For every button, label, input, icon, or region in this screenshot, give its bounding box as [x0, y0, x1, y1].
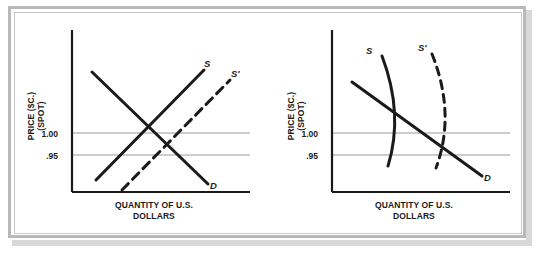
chart-panel-elastic-supply: PRICE ($C.) (SPOT) 1.00 .95 S S' D QUANT… — [18, 14, 268, 230]
x-axis-title-line2: DOLLARS — [314, 211, 514, 222]
x-axis-title-line1: QUANTITY OF U.S. — [54, 200, 254, 211]
curve-demand — [352, 82, 482, 176]
x-axis-title-line2: DOLLARS — [54, 211, 254, 222]
x-axis-title-line1: QUANTITY OF U.S. — [314, 200, 514, 211]
figure-root: PRICE ($C.) (SPOT) 1.00 .95 S S' D QUANT… — [0, 0, 538, 260]
chart-panel-inelastic-supply: PRICE ($C.) (SPOT) 1.00 .95 S S' D QUANT… — [278, 14, 528, 230]
curve-label-supply: S — [366, 45, 372, 56]
frame-drop-shadow-bottom — [12, 240, 530, 246]
plot-area-inelastic — [278, 14, 528, 230]
x-axis-title: QUANTITY OF U.S. DOLLARS — [314, 200, 514, 222]
curve-label-supply-shifted: S' — [231, 68, 240, 79]
x-axis-title: QUANTITY OF U.S. DOLLARS — [54, 200, 254, 222]
curve-label-demand: D — [484, 172, 491, 183]
curve-supply-shifted — [432, 54, 445, 168]
curve-label-demand: D — [210, 180, 217, 191]
curve-label-supply: S — [204, 58, 210, 69]
plot-area-elastic — [18, 14, 268, 230]
curve-label-supply-shifted: S' — [418, 42, 427, 53]
